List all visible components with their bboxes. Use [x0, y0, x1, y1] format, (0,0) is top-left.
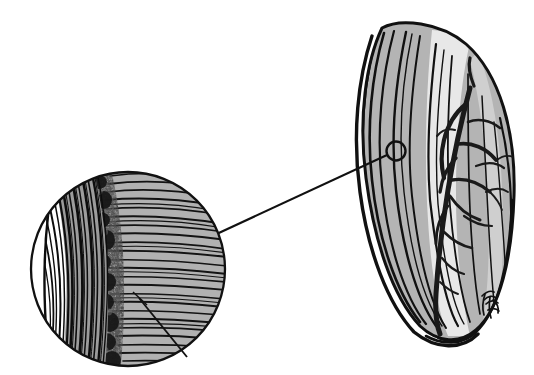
botanical-illustration: Botanical line illustration: grass flore…	[0, 0, 534, 375]
figure-root: Botanical line illustration: grass flore…	[0, 0, 534, 375]
